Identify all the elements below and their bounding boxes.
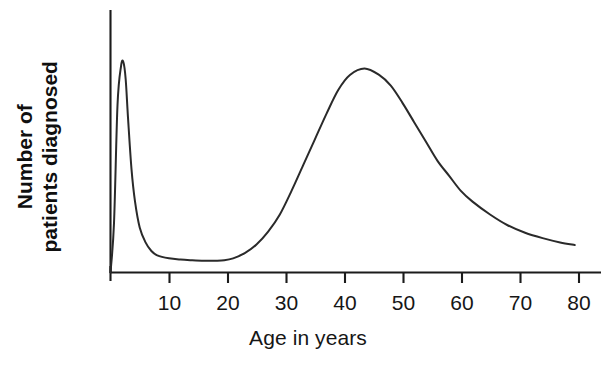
- x-tick-label-50: 50: [392, 291, 415, 314]
- y-axis-title: Number of patients diagnosed: [13, 27, 63, 287]
- data-series-curve: [111, 61, 575, 273]
- chart-plot-area: 10 20 30 40 50 60 70 80: [0, 0, 616, 366]
- x-tick-label-60: 60: [450, 291, 473, 314]
- y-axis-title-line2: patients diagnosed: [38, 27, 63, 287]
- x-tick-label-20: 20: [216, 291, 239, 314]
- x-tick-label-70: 70: [509, 291, 532, 314]
- chart-figure: 10 20 30 40 50 60 70 80 Number of patien…: [0, 0, 616, 366]
- y-axis-title-line1: Number of: [13, 27, 38, 287]
- x-axis-ticks-group: [111, 266, 580, 283]
- x-tick-label-30: 30: [275, 291, 298, 314]
- x-tick-label-80: 80: [567, 291, 590, 314]
- x-tick-label-10: 10: [158, 291, 181, 314]
- x-axis-tick-labels-group: 10 20 30 40 50 60 70 80: [158, 291, 591, 314]
- x-tick-label-40: 40: [333, 291, 356, 314]
- x-axis-title: Age in years: [0, 326, 616, 350]
